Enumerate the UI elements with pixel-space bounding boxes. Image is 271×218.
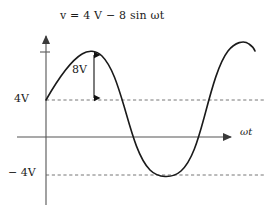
level-label-positive: 4V	[14, 93, 29, 104]
x-axis-label: ωt	[240, 127, 252, 137]
figure-canvas: v = 4 V − 8 sin ωt 4V − 4V 8V ωt	[0, 0, 271, 218]
waveform-plot	[0, 0, 271, 218]
equation-label: v = 4 V − 8 sin ωt	[60, 10, 164, 21]
amplitude-label: 8V	[72, 64, 87, 75]
level-label-negative: − 4V	[8, 167, 36, 178]
